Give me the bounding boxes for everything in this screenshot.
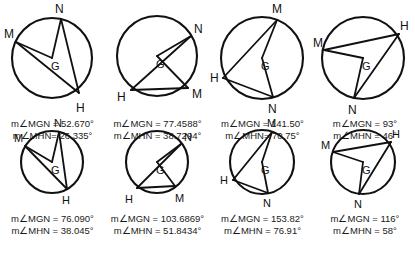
circle-diagram: MNHG	[105, 118, 210, 213]
measure-mhn: m∠MHN = 58°	[331, 225, 400, 237]
circle-diagram: MNHG	[313, 0, 415, 118]
segment-MH	[137, 186, 175, 188]
segment-MG	[333, 152, 363, 162]
vertex-label-m: M	[267, 118, 276, 129]
measure-mhn: m∠MHN = 51.8434°	[111, 225, 204, 237]
vertex-label-h: H	[76, 101, 85, 115]
circle-diagram: MNHG	[313, 118, 415, 213]
center-label-g: G	[261, 164, 270, 176]
vertex-label-h: H	[400, 19, 409, 33]
vertex-label-h: H	[220, 174, 228, 186]
figure-5: MNHG	[0, 118, 105, 213]
segment-NG	[52, 19, 61, 58]
segment-MH	[25, 146, 67, 189]
center-label-g: G	[362, 164, 371, 176]
vertex-label-n: N	[263, 197, 271, 209]
angle-measures: m∠MGN = 116°m∠MHN = 58°	[331, 213, 400, 237]
vertex-label-h: H	[392, 128, 400, 140]
circle-diagram: MNHG	[0, 0, 105, 118]
figure-cell: MNHGm∠MGN = 77.4588°m∠MHN = 38.7294°	[105, 0, 210, 118]
center-label-g: G	[261, 60, 270, 72]
circle-diagram: MNHG	[210, 118, 315, 213]
figure-grid: MNHGm∠MGN = 52.670°m∠MHN= 26.335°MNHGm∠M…	[0, 0, 415, 270]
measure-mhn: m∠MHN = 38.045°	[11, 225, 94, 237]
vertex-label-m: M	[313, 36, 323, 50]
measure-mgn: m∠MGN = 103.6869°	[111, 213, 204, 225]
vertex-label-n: N	[54, 118, 62, 129]
vertex-label-m: M	[192, 87, 202, 101]
vertex-label-n: N	[55, 2, 64, 16]
vertex-label-h: H	[117, 90, 126, 104]
angle-measures: m∠MGN = 153.82°m∠MHN = 76.91°	[221, 213, 304, 237]
figure-4: MNHG	[313, 0, 415, 118]
vertex-label-n: N	[184, 131, 192, 143]
vertex-label-n: N	[194, 22, 203, 36]
vertex-label-h: H	[125, 193, 133, 205]
angle-measures: m∠MGN = 76.090°m∠MHN = 38.045°	[11, 213, 94, 237]
vertex-label-m: M	[14, 132, 23, 144]
figure-8: MNHG	[313, 118, 415, 213]
vertex-label-h: H	[210, 71, 219, 85]
measure-mgn: m∠MGN = 76.090°	[11, 213, 94, 225]
circle-diagram: MNHG	[105, 0, 210, 118]
vertex-label-m: M	[272, 2, 282, 16]
center-label-g: G	[51, 164, 60, 176]
circle-diagram: MNHG	[0, 118, 105, 213]
angle-measures: m∠MGN = 103.6869°m∠MHN = 51.8434°	[111, 213, 204, 237]
figure-cell: MNHGm∠MGN = 76.090°m∠MHN = 38.045°	[0, 118, 105, 240]
figure-7: MNHG	[210, 118, 315, 213]
measure-mgn: m∠MGN = 153.82°	[221, 213, 304, 225]
center-label-g: G	[51, 60, 60, 72]
segment-MG	[324, 50, 363, 58]
vertex-label-n: N	[348, 103, 357, 117]
vertex-label-m: M	[175, 192, 184, 204]
segment-NG	[52, 132, 59, 162]
center-label-g: G	[156, 58, 165, 70]
center-label-g: G	[362, 60, 371, 72]
vertex-label-m: M	[321, 139, 330, 151]
figure-cell: MNHGm∠MGN = 141.50°m∠MHN= 70.75°	[210, 0, 315, 118]
figure-3: MNHG	[210, 0, 315, 118]
center-label-g: G	[156, 164, 165, 176]
segment-MH	[333, 142, 391, 152]
vertex-label-m: M	[4, 27, 14, 41]
vertex-label-n: N	[268, 102, 277, 116]
figure-2: MNHG	[105, 0, 210, 118]
figure-1: MNHG	[0, 0, 105, 118]
segment-MG	[262, 20, 277, 58]
vertex-label-h: H	[62, 194, 70, 206]
segment-MG	[262, 132, 272, 162]
segment-MH	[16, 42, 79, 93]
vertex-label-n: N	[354, 198, 362, 210]
figure-cell: MNHGm∠MGN = 153.82°m∠MHN = 76.91°	[210, 118, 315, 240]
segment-NH	[223, 78, 273, 97]
figure-cell: MNHGm∠MGN = 103.6869°m∠MHN = 51.8434°	[105, 118, 210, 240]
figure-cell: MNHGm∠MGN = 52.670°m∠MHN= 26.335°	[0, 0, 105, 118]
circle-diagram: MNHG	[210, 0, 315, 118]
figure-6: MNHG	[105, 118, 210, 213]
segment-NH	[61, 19, 79, 93]
segment-NG	[157, 36, 191, 56]
segment-MH	[324, 34, 399, 50]
measure-mhn: m∠MHN = 76.91°	[221, 225, 304, 237]
measure-mgn: m∠MGN = 116°	[331, 213, 400, 225]
figure-cell: MNHGm∠MGN = 116°m∠MHN = 58°	[315, 118, 415, 240]
segment-NH	[59, 132, 67, 189]
figure-cell: MNHGm∠MGN = 93°m∠MHN = 46°	[315, 0, 415, 118]
